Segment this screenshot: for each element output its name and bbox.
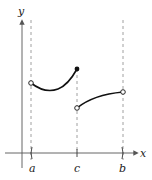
tick-label-a: a bbox=[29, 162, 36, 175]
right-curve bbox=[77, 92, 123, 108]
open-endpoint-c bbox=[75, 106, 80, 111]
tick-label-c: c bbox=[74, 162, 80, 175]
x-axis-label: x bbox=[140, 147, 147, 160]
y-axis-label: y bbox=[17, 5, 25, 18]
open-endpoint-a bbox=[29, 81, 34, 86]
tick-label-b: b bbox=[119, 162, 126, 175]
open-endpoint-b bbox=[121, 90, 126, 95]
closed-endpoint-c bbox=[75, 67, 80, 72]
left-curve bbox=[31, 69, 77, 90]
piecewise-graph: y x a c b bbox=[0, 0, 152, 180]
